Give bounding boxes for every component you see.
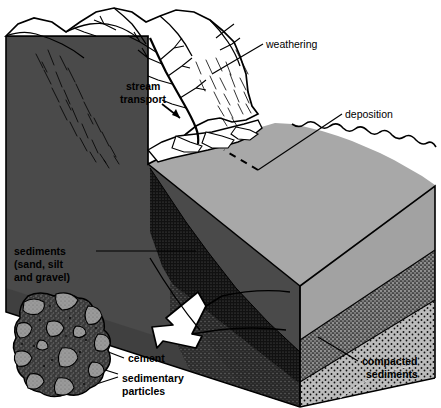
label-sedimentary-particles-line1: sedimentary	[122, 372, 184, 385]
label-deposition: deposition	[345, 108, 393, 121]
label-stream-transport-line2: transport	[120, 93, 166, 106]
label-sediments-line3: and gravel)	[14, 271, 70, 284]
label-compacted-line1: compacted	[362, 355, 417, 368]
block-diagram-svg	[0, 0, 441, 408]
rock-inset	[13, 293, 110, 397]
label-weathering: weathering	[266, 38, 317, 51]
label-sedimentary-particles-line2: particles	[122, 385, 165, 398]
label-stream-transport-line1: stream	[126, 80, 160, 93]
diagram-canvas: weathering stream transport deposition s…	[0, 0, 441, 408]
label-compacted-line2: sediments	[366, 368, 418, 381]
label-sediments-line2: (sand, silt	[14, 258, 63, 271]
label-cement: cement	[128, 352, 165, 365]
label-sediments-line1: sediments	[14, 245, 66, 258]
